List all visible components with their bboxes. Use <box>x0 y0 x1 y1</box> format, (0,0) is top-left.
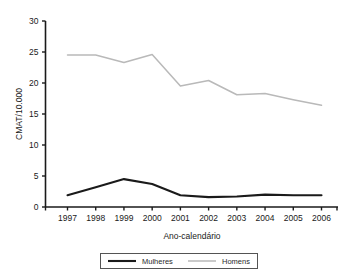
x-axis-tick-label: 1998 <box>86 213 105 223</box>
x-axis-tick-label: 1999 <box>114 213 133 223</box>
chart-canvas: 051015202530 199719981999200020012002200… <box>0 0 345 278</box>
y-axis-title: CMAT/10.000 <box>14 88 24 140</box>
y-axis-tick-label: 10 <box>29 140 39 150</box>
x-axis-tick-label: 2004 <box>256 213 275 223</box>
x-axis-tick-label: 2005 <box>284 213 303 223</box>
x-axis-tick-labels: 1997199819992000200120022003200420052006 <box>58 213 331 223</box>
x-axis-tick-label: 2002 <box>199 213 218 223</box>
y-axis-tick-label: 25 <box>29 47 39 57</box>
y-axis-tick-label: 5 <box>34 171 39 181</box>
series-line-homens <box>68 54 322 105</box>
x-axis-tick-label: 1997 <box>58 213 77 223</box>
y-axis-tick-label: 15 <box>29 109 39 119</box>
x-axis-title: Ano-calendário <box>163 231 220 241</box>
x-axis-tick-label: 2006 <box>312 213 331 223</box>
x-axis-tick-label: 2000 <box>143 213 162 223</box>
legend-label-homens: Homens <box>222 257 250 266</box>
y-axis-tick-label: 20 <box>29 78 39 88</box>
y-axis-tick-label: 30 <box>29 16 39 26</box>
y-axis-tick-label: 0 <box>34 202 39 212</box>
line-chart: 051015202530 199719981999200020012002200… <box>0 0 345 278</box>
x-axis-tick-label: 2003 <box>227 213 246 223</box>
legend-label-mulheres: Mulheres <box>142 257 173 266</box>
x-axis-tick-label: 2001 <box>171 213 190 223</box>
y-axis-tick-labels: 051015202530 <box>29 16 39 212</box>
series-line-mulheres <box>68 179 322 197</box>
chart-legend: Mulheres Homens <box>101 254 258 269</box>
